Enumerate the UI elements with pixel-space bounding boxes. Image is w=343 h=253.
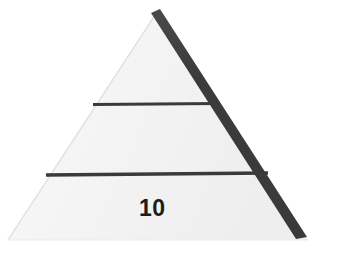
pyramid-divider-line-upper [93, 104, 219, 105]
pyramid-graphic [0, 0, 343, 253]
pyramid-divider-line-lower [46, 173, 268, 175]
pyramid-diagram: 10 [0, 0, 343, 253]
pyramid-tier-label-bottom: 10 [139, 197, 166, 220]
